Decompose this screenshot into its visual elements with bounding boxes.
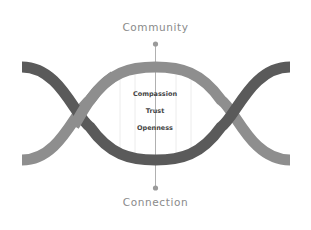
top-axis-dot: [153, 41, 158, 46]
center-item-compassion: Compassion: [100, 90, 210, 98]
light-wave-overlap-left: [74, 76, 114, 126]
connection-label: Connection: [0, 196, 311, 208]
center-item-trust: Trust: [100, 107, 210, 115]
community-label: Community: [0, 21, 311, 33]
bottom-axis-dot: [153, 185, 158, 190]
center-item-openness: Openness: [100, 124, 210, 132]
double-helix-diagram: Community Compassion Trust Openness Conn…: [0, 0, 311, 230]
